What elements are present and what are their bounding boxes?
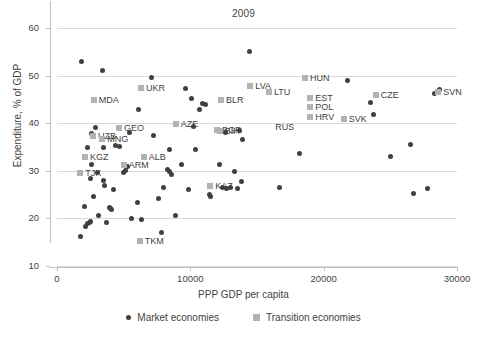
legend-circle-icon bbox=[126, 315, 131, 320]
data-point bbox=[161, 185, 166, 190]
x-axis-line bbox=[50, 267, 457, 268]
x-tick-mark bbox=[57, 267, 58, 271]
data-point bbox=[408, 142, 413, 147]
data-point bbox=[82, 154, 88, 160]
data-point bbox=[247, 49, 252, 54]
data-point bbox=[371, 112, 376, 117]
x-tick-label: 0 bbox=[54, 273, 59, 284]
data-point bbox=[78, 234, 83, 239]
data-point bbox=[159, 230, 164, 235]
data-point bbox=[116, 125, 122, 131]
data-point-label: LTU bbox=[274, 87, 290, 97]
data-point-label: ALB bbox=[149, 152, 166, 162]
data-point bbox=[203, 102, 208, 107]
data-point bbox=[121, 162, 127, 168]
gridline-y bbox=[57, 123, 457, 124]
y-tick-label: 40 bbox=[9, 117, 39, 128]
data-point bbox=[240, 137, 245, 142]
x-axis-title: PPP GDP per capita bbox=[0, 289, 487, 300]
legend-entry[interactable]: Market economies bbox=[126, 312, 219, 323]
data-point bbox=[91, 97, 97, 103]
x-tick-label: 30000 bbox=[444, 273, 470, 284]
plot-area: 102030405060 0100002000030000 TJKKGZUZBM… bbox=[57, 28, 457, 266]
data-point bbox=[109, 207, 114, 212]
data-point bbox=[99, 136, 105, 142]
data-point bbox=[173, 121, 179, 127]
data-point bbox=[102, 183, 107, 188]
gridline-y bbox=[57, 266, 457, 267]
gridline-y bbox=[57, 76, 457, 77]
data-point-label: ARM bbox=[129, 160, 149, 170]
data-point bbox=[218, 97, 224, 103]
data-point bbox=[207, 183, 213, 189]
data-point-label: CZE bbox=[381, 90, 399, 100]
data-point-label: BIH bbox=[225, 126, 240, 136]
data-point bbox=[208, 194, 213, 199]
data-point bbox=[193, 147, 198, 152]
gridline-y bbox=[57, 218, 457, 219]
x-tick-mark bbox=[457, 267, 458, 271]
data-point bbox=[341, 116, 347, 122]
data-point-label: TJK bbox=[85, 168, 101, 178]
data-point bbox=[88, 219, 93, 224]
data-point-label: HUN bbox=[310, 73, 330, 83]
data-point bbox=[373, 92, 379, 98]
data-point bbox=[297, 151, 302, 156]
data-point bbox=[156, 196, 161, 201]
data-point bbox=[435, 89, 441, 95]
data-point bbox=[90, 133, 96, 139]
y-tick-mark bbox=[46, 76, 50, 77]
gridline-y bbox=[57, 171, 457, 172]
legend-entry[interactable]: Transition economies bbox=[253, 312, 361, 323]
y-tick-label: 10 bbox=[9, 260, 39, 271]
y-tick-mark bbox=[46, 266, 50, 267]
data-point bbox=[111, 187, 116, 192]
data-point-label: TKM bbox=[145, 236, 164, 246]
gridline-y bbox=[57, 28, 457, 29]
y-tick-label: 60 bbox=[9, 22, 39, 33]
data-point bbox=[85, 145, 90, 150]
y-tick-mark bbox=[46, 218, 50, 219]
data-point bbox=[123, 168, 128, 173]
y-tick-mark bbox=[46, 123, 50, 124]
data-point bbox=[167, 147, 172, 152]
chart-legend: Market economiesTransition economies bbox=[0, 312, 487, 323]
data-point bbox=[137, 238, 143, 244]
data-point bbox=[149, 75, 154, 80]
data-point bbox=[277, 185, 282, 190]
data-point bbox=[141, 154, 147, 160]
data-point bbox=[239, 179, 244, 184]
data-point bbox=[189, 96, 194, 101]
data-point bbox=[91, 194, 96, 199]
data-point-label: KAZ bbox=[215, 181, 233, 191]
data-point-label: KGZ bbox=[90, 152, 109, 162]
data-point bbox=[104, 220, 109, 225]
data-point-label: RUS bbox=[275, 122, 294, 132]
data-point bbox=[89, 162, 94, 167]
data-point bbox=[217, 128, 223, 134]
data-point bbox=[151, 133, 156, 138]
y-tick-mark bbox=[46, 28, 50, 29]
data-point bbox=[96, 213, 101, 218]
x-tick-mark bbox=[324, 267, 325, 271]
data-point bbox=[93, 125, 98, 130]
data-point-label: MNG bbox=[107, 134, 128, 144]
data-point bbox=[79, 59, 84, 64]
data-point bbox=[169, 172, 174, 177]
data-point bbox=[217, 162, 222, 167]
data-point bbox=[307, 104, 313, 110]
data-point-label: AZE bbox=[181, 119, 199, 129]
y-tick-label: 30 bbox=[9, 165, 39, 176]
data-point bbox=[307, 95, 313, 101]
data-point bbox=[179, 162, 184, 167]
scatter-chart-figure: 2009 Expenditure, % of GDP PPP GDP per c… bbox=[0, 0, 487, 338]
data-point bbox=[100, 68, 105, 73]
data-point bbox=[307, 114, 313, 120]
data-point bbox=[235, 186, 240, 191]
x-tick-mark bbox=[190, 267, 191, 271]
data-point-label: POL bbox=[315, 102, 333, 112]
data-point-label: HRV bbox=[315, 112, 334, 122]
x-tick-label: 10000 bbox=[177, 273, 203, 284]
data-point bbox=[368, 100, 373, 105]
data-point bbox=[266, 89, 272, 95]
